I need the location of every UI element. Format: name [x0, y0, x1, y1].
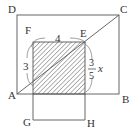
- rectangle-lower: [33, 94, 85, 120]
- label-g: G: [23, 116, 31, 128]
- dimension-arc-right: [85, 44, 92, 92]
- dimension-right-denominator: 5: [89, 70, 94, 81]
- dimension-right-numerator: 3: [89, 57, 94, 68]
- label-d: D: [8, 3, 16, 15]
- dimension-right-variable: x: [97, 62, 103, 74]
- label-a: A: [8, 89, 16, 101]
- label-c: C: [120, 3, 127, 15]
- label-f: F: [25, 24, 31, 36]
- dimension-top-width: 4: [55, 32, 61, 44]
- label-e: E: [80, 27, 87, 39]
- shaded-square: [33, 42, 85, 94]
- dimension-left-height: 3: [23, 60, 29, 72]
- label-b: B: [122, 93, 129, 105]
- label-h: H: [87, 117, 95, 129]
- geometry-diagram: D C F E A B G H 4 3 3 5 x: [0, 0, 139, 135]
